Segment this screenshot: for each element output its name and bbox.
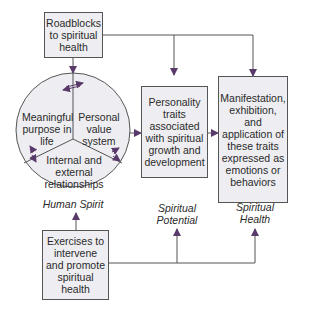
label-human-spirit: Human Spirit [38, 198, 108, 210]
roadblocks-box: Roadblocks to spiritual health [44, 12, 103, 58]
exercises-text: Exercises to intervene and promote spiri… [46, 235, 105, 295]
label-spiritual-potential: Spiritual Potential [152, 202, 202, 226]
sector-personal-value: Personal value system [76, 111, 122, 147]
label-spiritual-health: Spiritual Health [230, 201, 280, 225]
exercises-box: Exercises to intervene and promote spiri… [42, 230, 109, 300]
manifestation-text: Manifestation, exhibition, and applicati… [220, 92, 285, 188]
sector-meaningful-purpose: Meaningful purpose in life [22, 111, 72, 147]
personality-text: Personality traits associated with spiri… [143, 96, 206, 168]
roadblocks-text: Roadblocks to spiritual health [45, 17, 102, 53]
manifestation-box: Manifestation, exhibition, and applicati… [218, 76, 288, 203]
sector-relationships: Internal and external relationships [40, 154, 108, 190]
personality-box: Personality traits associated with spiri… [141, 86, 208, 178]
